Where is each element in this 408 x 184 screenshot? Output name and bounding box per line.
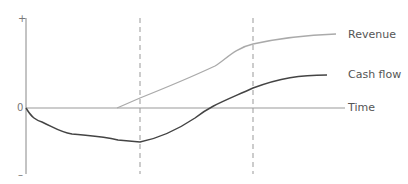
zero-label: 0 [17,103,23,113]
minus-label: – [18,170,23,180]
cash-flow-label: Cash flow [348,69,401,80]
time-label: Time [348,102,375,113]
revenue-line [117,34,336,108]
revenue-label: Revenue [348,29,396,40]
cash-flow-diagram [0,0,408,184]
plus-label: + [18,14,26,24]
